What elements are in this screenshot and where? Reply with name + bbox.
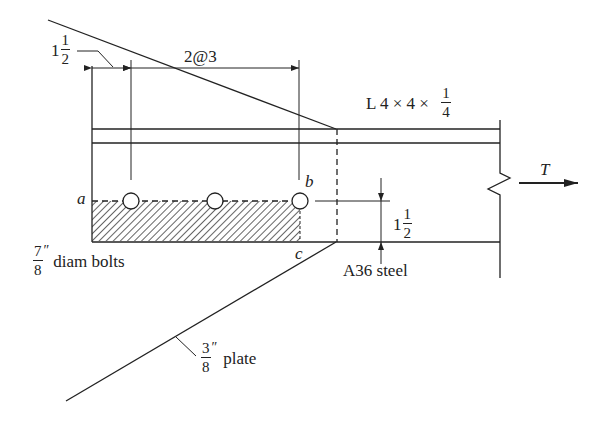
bolt-size-text: diam bolts	[53, 252, 124, 271]
break-line	[488, 120, 510, 278]
angle-section-prefix: L 4 × 4 ×	[366, 94, 433, 113]
bolt-size-num: 7	[33, 244, 43, 261]
diagram-canvas: 112 2@3 L 4 × 4 × 14 T a b c 112 78″diam…	[0, 0, 608, 428]
plate-den: 8	[202, 358, 210, 375]
angle-section-num: 1	[441, 86, 451, 103]
gage-whole: 1	[393, 215, 402, 234]
block-shear-area	[92, 201, 300, 241]
point-b-label: b	[305, 173, 314, 190]
material-label: A36 steel	[343, 262, 408, 279]
edge-distance-leader	[77, 51, 113, 67]
edge-distance-den: 2	[62, 50, 70, 67]
point-c-label: c	[295, 245, 303, 262]
plate-text: plate	[223, 349, 256, 368]
edge-distance-whole: 1	[51, 41, 60, 60]
bolt-spacing-label: 2@3	[184, 48, 217, 65]
diagram-svg	[0, 0, 608, 428]
bolt-3	[292, 193, 308, 209]
bolt-size-unit: ″	[44, 243, 50, 258]
gage-num: 1	[403, 207, 413, 224]
plate-num: 3	[201, 341, 211, 358]
bolt-size-label: 78″diam bolts	[33, 244, 125, 278]
edge-distance-num: 1	[61, 33, 71, 50]
plate-unit: ″	[212, 340, 218, 355]
plate-label: 38″plate	[201, 341, 256, 375]
bolt-2	[207, 193, 223, 209]
plate-leader	[176, 337, 196, 356]
edge-distance-label: 112	[51, 33, 70, 67]
angle-section-den: 4	[442, 103, 450, 120]
angle-section-label: L 4 × 4 × 14	[366, 86, 451, 120]
tension-label: T	[540, 161, 549, 178]
point-a-label: a	[77, 190, 86, 207]
plate-upper-edge	[48, 20, 336, 129]
gage-label: 112	[393, 207, 412, 241]
gage-den: 2	[404, 224, 412, 241]
bolt-size-den: 8	[34, 261, 42, 278]
bolt-1	[123, 193, 139, 209]
